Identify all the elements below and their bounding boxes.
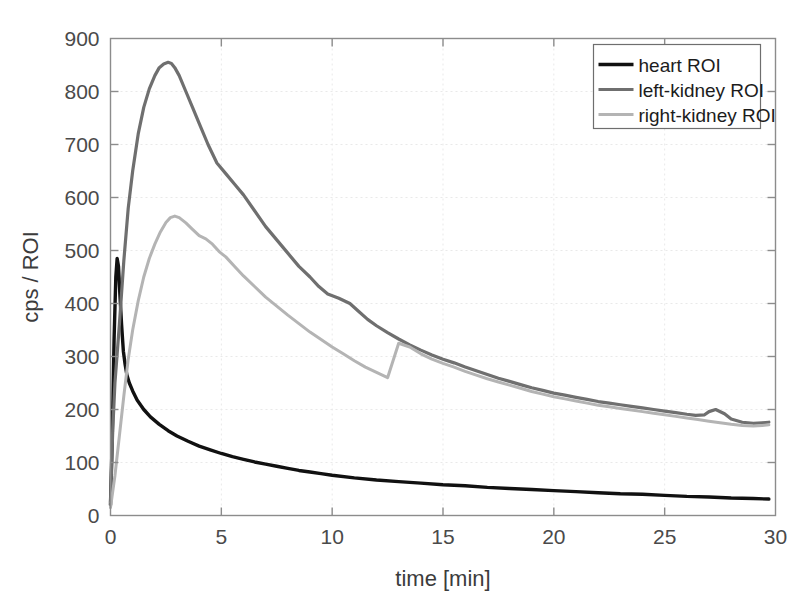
x-tick-label: 30 xyxy=(764,525,787,548)
legend-label-2[interactable]: right-kidney ROI xyxy=(639,105,776,126)
y-tick-label: 500 xyxy=(64,239,99,262)
y-tick-label: 200 xyxy=(64,398,99,421)
y-tick-label: 900 xyxy=(64,27,99,50)
y-tick-label: 100 xyxy=(64,451,99,474)
legend-label-1[interactable]: left-kidney ROI xyxy=(639,80,765,101)
y-tick-label: 400 xyxy=(64,292,99,315)
x-tick-label: 10 xyxy=(320,525,343,548)
y-tick-label: 0 xyxy=(88,504,100,527)
series-line-0 xyxy=(111,258,769,504)
x-tick-label: 25 xyxy=(653,525,676,548)
y-tick-label: 700 xyxy=(64,133,99,156)
x-tick-label: 5 xyxy=(215,525,227,548)
y-tick-labels: 0100200300400500600700800900 xyxy=(64,27,99,527)
y-axis-title: cps / ROI xyxy=(18,231,43,323)
x-axis-title: time [min] xyxy=(395,566,490,591)
legend-label-0[interactable]: heart ROI xyxy=(639,55,721,76)
figure-canvas: 051015202530 010020030040050060070080090… xyxy=(0,0,808,610)
y-tick-label: 300 xyxy=(64,345,99,368)
x-tick-label: 0 xyxy=(105,525,117,548)
x-tick-labels: 051015202530 xyxy=(105,525,788,548)
series-line-2 xyxy=(111,216,769,508)
line-chart: 051015202530 010020030040050060070080090… xyxy=(0,0,808,610)
x-tick-label: 20 xyxy=(542,525,565,548)
y-tick-label: 600 xyxy=(64,186,99,209)
data-series-layer xyxy=(111,62,769,507)
y-tick-label: 800 xyxy=(64,80,99,103)
chart-legend[interactable]: heart ROIleft-kidney ROIright-kidney ROI xyxy=(594,45,776,129)
x-tick-label: 15 xyxy=(431,525,454,548)
